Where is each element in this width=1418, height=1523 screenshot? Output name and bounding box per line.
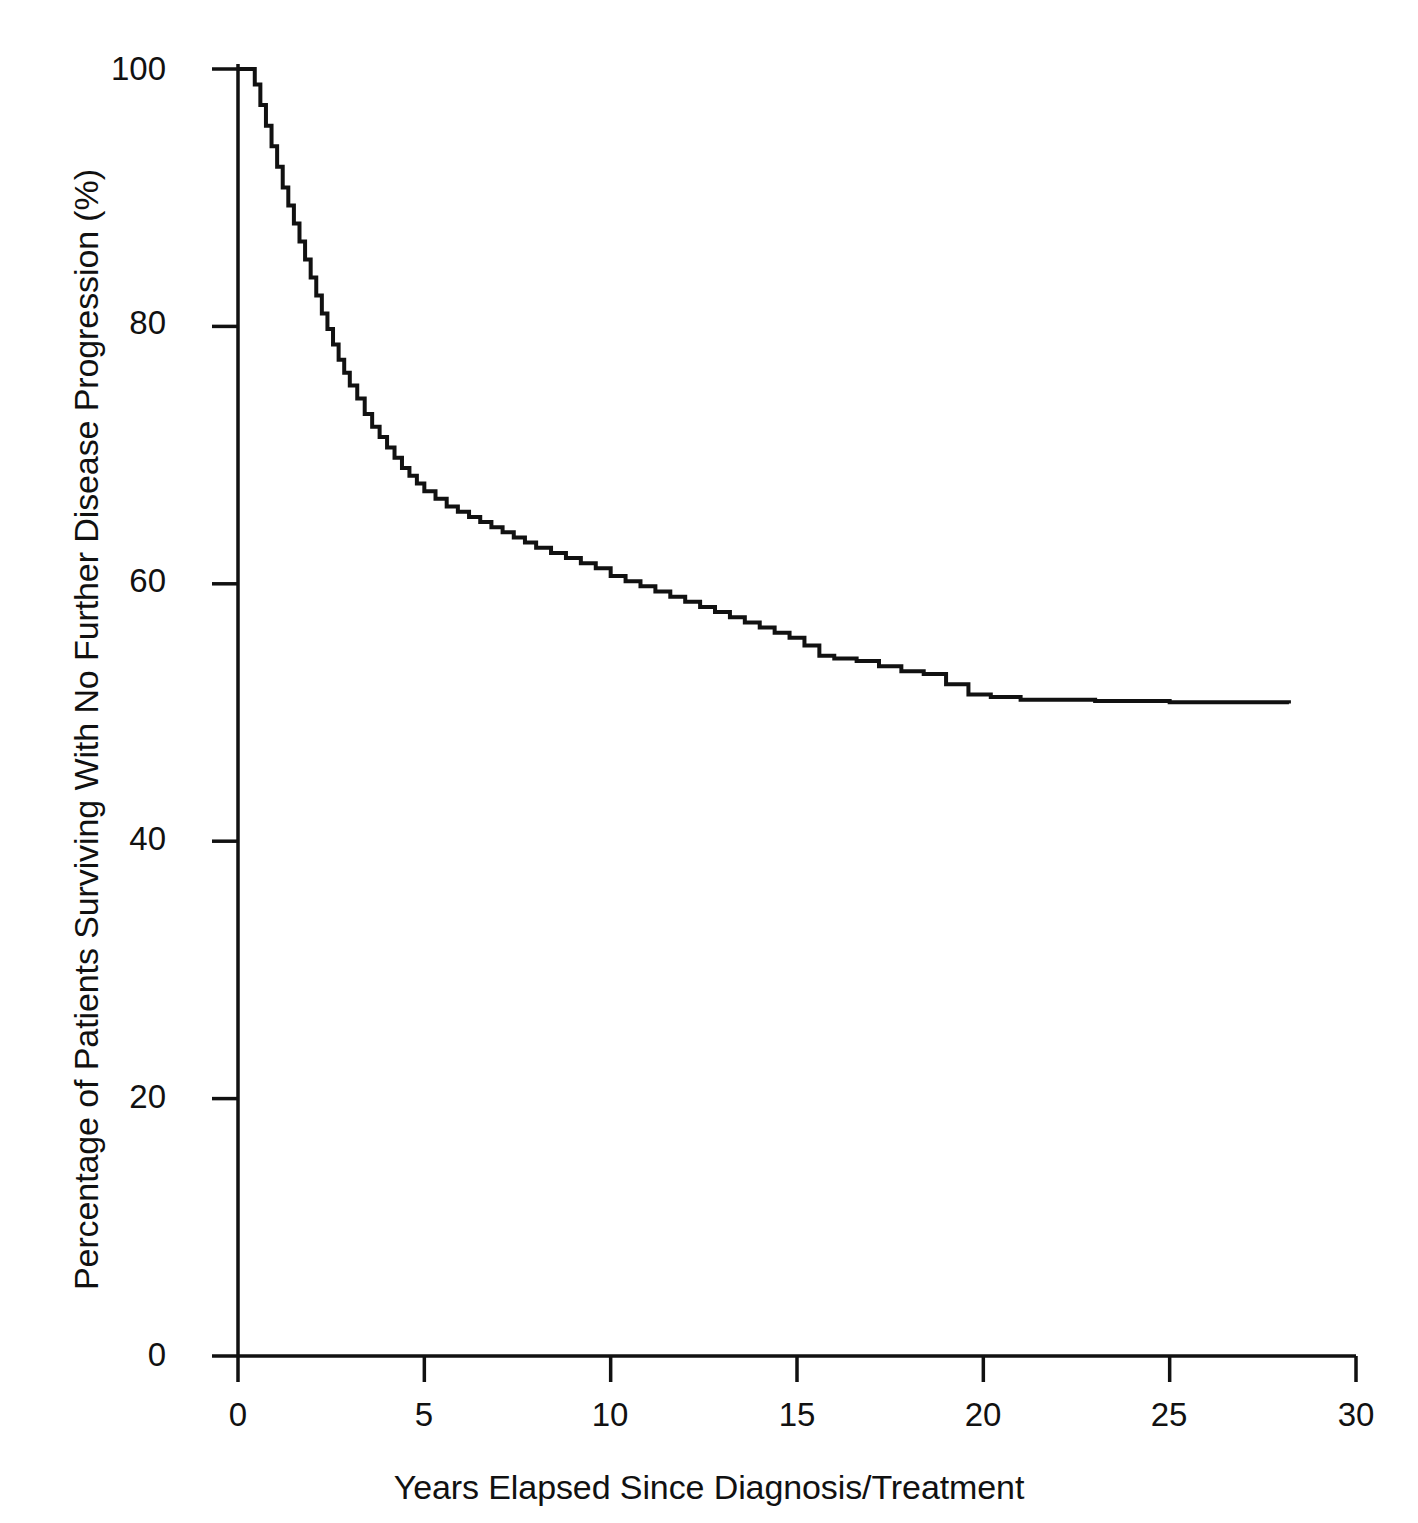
y-tick-label-0: 0 [76,1338,166,1371]
x-tick-label-10: 10 [565,1398,655,1431]
kaplan-meier-figure: 100 80 60 40 20 0 0 5 10 15 20 25 30 Per… [0,0,1418,1523]
x-tick-label-0: 0 [193,1398,283,1431]
x-tick-label-30: 30 [1311,1398,1401,1431]
survival-plot-canvas [0,0,1418,1523]
x-axis-tick-marks [238,1356,1356,1382]
x-tick-label-25: 25 [1124,1398,1214,1431]
survival-curve-line [238,69,1289,703]
y-axis-title: Percentage of Patients Surviving With No… [64,0,108,1290]
y-axis-tick-marks [212,69,238,1356]
x-tick-label-5: 5 [379,1398,469,1431]
x-tick-label-20: 20 [938,1398,1028,1431]
x-tick-label-15: 15 [752,1398,842,1431]
x-axis-title: Years Elapsed Since Diagnosis/Treatment [0,1468,1418,1507]
